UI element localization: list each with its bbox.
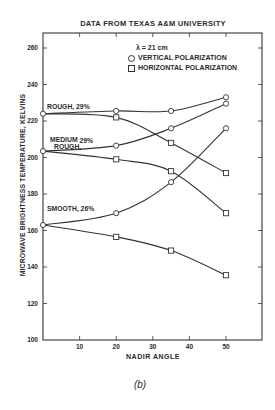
annotation-medium: MEDIUM 29% — [50, 136, 93, 143]
square-marker-icon — [169, 140, 174, 145]
series-line — [43, 151, 226, 213]
axis-ticks — [43, 33, 262, 340]
legend-label-horizontal: HORIZONTAL POLARIZATION — [138, 63, 237, 73]
square-marker-icon — [128, 65, 135, 72]
x-tick-label: 30 — [143, 343, 163, 350]
plot-frame — [43, 33, 262, 340]
legend-item-horizontal: HORIZONTAL POLARIZATION — [128, 63, 237, 73]
circle-marker-icon — [223, 95, 228, 100]
x-tick-label: 50 — [216, 343, 236, 350]
data-markers — [40, 95, 228, 278]
square-marker-icon — [223, 273, 228, 278]
annotation-medium-rough: ROUGH, — [54, 143, 81, 150]
square-marker-icon — [169, 248, 174, 253]
y-tick-label: 120 — [0, 300, 38, 307]
x-tick-label: 10 — [70, 343, 90, 350]
chart-title: DATA FROM TEXAS A&M UNIVERSITY — [43, 19, 263, 28]
origin-circle-marker-icon — [40, 149, 45, 154]
circle-marker-icon — [128, 55, 135, 62]
circle-marker-icon — [169, 180, 174, 185]
origin-circle-marker-icon — [40, 222, 45, 227]
square-marker-icon — [223, 211, 228, 216]
circle-marker-icon — [169, 108, 174, 113]
circle-marker-icon — [114, 108, 119, 113]
y-tick-label: 240 — [0, 81, 38, 88]
legend: λ = 21 cm VERTICAL POLARIZATION HORIZONT… — [128, 43, 237, 73]
circle-marker-icon — [169, 126, 174, 131]
circle-marker-icon — [223, 126, 228, 131]
x-axis-label: NADIR ANGLE — [43, 353, 263, 360]
legend-label-vertical: VERTICAL POLARIZATION — [138, 53, 227, 63]
square-marker-icon — [223, 170, 228, 175]
square-marker-icon — [114, 234, 119, 239]
circle-marker-icon — [114, 143, 119, 148]
wavelength-text: λ = 21 cm — [136, 43, 168, 53]
y-axis-label: MICROWAVE BRIGHTNESS TEMPERATURE, KELVIN… — [19, 94, 26, 277]
square-marker-icon — [169, 169, 174, 174]
x-tick-label: 20 — [106, 343, 126, 350]
legend-item-vertical: VERTICAL POLARIZATION — [128, 53, 237, 63]
circle-marker-icon — [223, 101, 228, 106]
annotation-medium-pct: 29% — [79, 137, 93, 144]
square-marker-icon — [114, 115, 119, 120]
y-tick-label: 260 — [0, 44, 38, 51]
square-marker-icon — [114, 157, 119, 162]
series-line — [43, 225, 226, 275]
circle-marker-icon — [114, 211, 119, 216]
figure-caption: (b) — [120, 379, 160, 390]
y-tick-label: 100 — [0, 336, 38, 343]
legend-wavelength: λ = 21 cm — [128, 43, 237, 53]
annotation-rough: ROUGH, 29% — [47, 103, 90, 110]
annotation-smooth: SMOOTH, 26% — [47, 205, 94, 212]
data-curves — [43, 97, 226, 275]
origin-circle-marker-icon — [40, 111, 45, 116]
x-tick-label: 40 — [179, 343, 199, 350]
annotation-medium-word: MEDIUM — [50, 136, 78, 143]
